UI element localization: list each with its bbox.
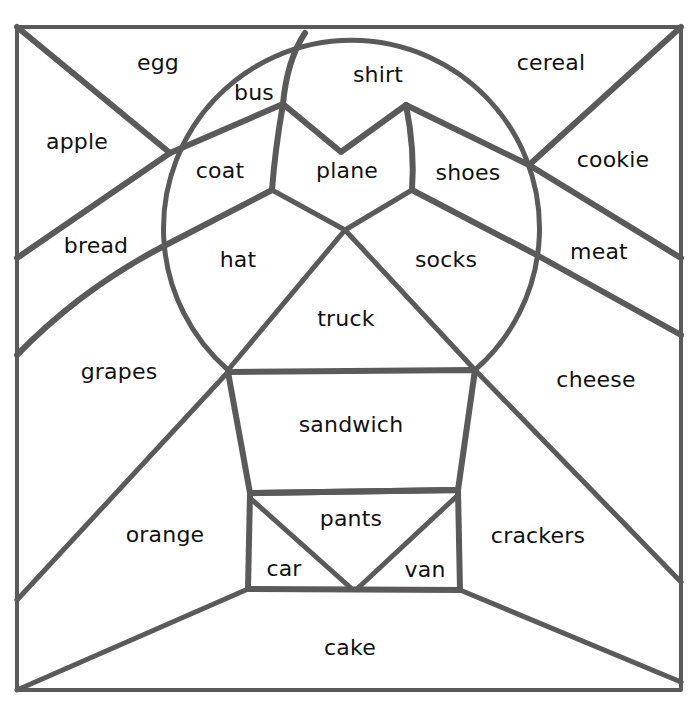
plane-shoes-divider <box>406 105 413 190</box>
region-label-orange: orange <box>126 522 205 547</box>
plane-bottom <box>272 190 412 230</box>
region-label-cereal: cereal <box>517 50 586 75</box>
region-label-egg: egg <box>137 50 179 75</box>
region-label-cake: cake <box>324 635 376 660</box>
crackers-cake-divider <box>460 590 681 682</box>
region-label-truck: truck <box>317 306 374 331</box>
region-label-car: car <box>266 556 301 581</box>
bread-grapes-divider <box>17 190 272 355</box>
region-label-pants: pants <box>320 506 382 531</box>
cereal-cookie-divider <box>529 27 681 165</box>
region-label-shoes: shoes <box>436 160 501 185</box>
region-label-socks: socks <box>415 247 477 272</box>
region-label-plane: plane <box>316 158 378 183</box>
region-label-hat: hat <box>220 247 257 272</box>
region-label-sandwich: sandwich <box>299 412 404 437</box>
region-label-grapes: grapes <box>81 359 158 384</box>
region-label-van: van <box>404 557 445 582</box>
region-label-bread: bread <box>64 233 129 258</box>
orange-cake-divider <box>17 589 248 690</box>
region-label-crackers: crackers <box>491 523 585 548</box>
region-label-cheese: cheese <box>556 367 635 392</box>
puzzle-outline-drawing <box>0 0 691 701</box>
region-label-meat: meat <box>570 239 628 264</box>
region-label-bus: bus <box>234 80 274 105</box>
cheese-crackers-divider <box>475 370 681 582</box>
region-label-coat: coat <box>196 158 244 183</box>
grapes-orange-divider <box>17 372 228 600</box>
region-label-apple: apple <box>46 129 108 154</box>
region-label-cookie: cookie <box>577 147 650 172</box>
region-label-shirt: shirt <box>353 62 403 87</box>
